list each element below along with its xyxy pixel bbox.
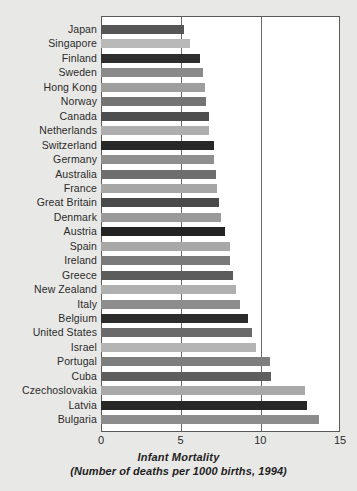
bar-denmark xyxy=(101,213,221,222)
bar-portugal xyxy=(101,357,270,366)
category-label: Singapore xyxy=(0,38,97,49)
chart-caption: Infant Mortality (Number of deaths per 1… xyxy=(0,450,357,478)
category-label: Italy xyxy=(0,299,97,310)
category-label: Latvia xyxy=(0,400,97,411)
category-label: Australia xyxy=(0,169,97,180)
x-tick-label: 15 xyxy=(334,434,346,447)
category-label: France xyxy=(0,183,97,194)
bar-italy xyxy=(101,300,240,309)
bar-greece xyxy=(101,271,233,280)
bars-layer xyxy=(101,16,340,432)
category-labels: JapanSingaporeFinlandSwedenHong KongNorw… xyxy=(0,16,97,432)
category-label: Sweden xyxy=(0,67,97,78)
category-label: Norway xyxy=(0,96,97,107)
bar-cuba xyxy=(101,372,271,381)
category-label: Great Britain xyxy=(0,197,97,208)
category-label: Hong Kong xyxy=(0,82,97,93)
category-label: Denmark xyxy=(0,212,97,223)
category-label: Spain xyxy=(0,241,97,252)
bar-norway xyxy=(101,97,206,106)
bar-belgium xyxy=(101,314,248,323)
bar-switzerland xyxy=(101,141,214,150)
category-label: Czechoslovakia xyxy=(0,385,97,396)
bar-sweden xyxy=(101,68,203,77)
x-axis-ticks: 051015 xyxy=(101,434,340,450)
bar-ireland xyxy=(101,256,230,265)
category-label: Bulgaria xyxy=(0,414,97,425)
category-label: New Zealand xyxy=(0,284,97,295)
bar-canada xyxy=(101,112,209,121)
bar-new-zealand xyxy=(101,285,236,294)
bar-germany xyxy=(101,155,214,164)
bar-latvia xyxy=(101,401,307,410)
category-label: Netherlands xyxy=(0,125,97,136)
bar-israel xyxy=(101,343,256,352)
bar-japan xyxy=(101,25,184,34)
x-tick-label: 10 xyxy=(254,434,266,447)
bar-united-states xyxy=(101,328,252,337)
caption-subtitle: (Number of deaths per 1000 births, 1994) xyxy=(0,464,357,478)
category-label: Canada xyxy=(0,111,97,122)
category-label: Switzerland xyxy=(0,140,97,151)
bar-australia xyxy=(101,170,216,179)
category-label: Belgium xyxy=(0,313,97,324)
bar-hong-kong xyxy=(101,83,205,92)
category-label: Germany xyxy=(0,154,97,165)
caption-title: Infant Mortality xyxy=(0,450,357,464)
category-label: Cuba xyxy=(0,371,97,382)
bar-netherlands xyxy=(101,126,209,135)
category-label: Ireland xyxy=(0,255,97,266)
category-label: Israel xyxy=(0,342,97,353)
category-label: United States xyxy=(0,327,97,338)
category-label: Portugal xyxy=(0,356,97,367)
category-label: Austria xyxy=(0,226,97,237)
bar-spain xyxy=(101,242,230,251)
bar-great-britain xyxy=(101,198,219,207)
bar-singapore xyxy=(101,39,190,48)
category-label: Japan xyxy=(0,24,97,35)
bar-france xyxy=(101,184,217,193)
infant-mortality-chart-figure: JapanSingaporeFinlandSwedenHong KongNorw… xyxy=(0,0,357,491)
category-label: Finland xyxy=(0,53,97,64)
bar-bulgaria xyxy=(101,415,319,424)
bar-austria xyxy=(101,227,225,236)
x-tick-label: 0 xyxy=(98,434,104,447)
bar-finland xyxy=(101,54,200,63)
x-tick-label: 5 xyxy=(178,434,184,447)
bar-czechoslovakia xyxy=(101,386,305,395)
category-label: Greece xyxy=(0,270,97,281)
